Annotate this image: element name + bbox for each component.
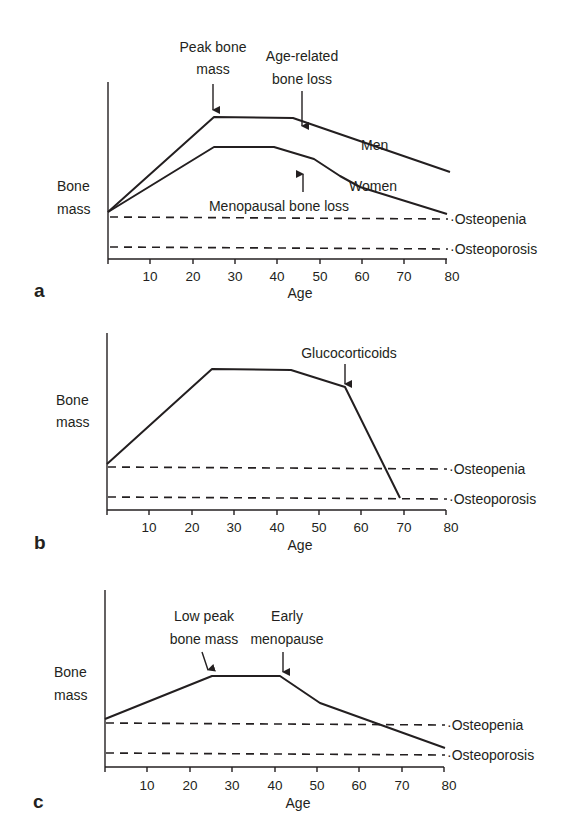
y-axis-label: mass bbox=[57, 201, 90, 217]
annotation-peak: mass bbox=[196, 61, 229, 77]
tick-label: 60 bbox=[351, 778, 366, 793]
tick-label: 80 bbox=[444, 269, 459, 284]
osteopenia-line bbox=[106, 723, 445, 725]
x-ticks bbox=[107, 510, 446, 515]
annotation-low-peak: bone mass bbox=[170, 631, 238, 647]
women-label: Women bbox=[349, 178, 397, 194]
panel-letter: a bbox=[34, 280, 45, 301]
annotation-age-related: bone loss bbox=[272, 71, 332, 87]
osteopenia-line bbox=[108, 467, 447, 469]
osteoporosis-line bbox=[106, 753, 445, 755]
panel-letter: c bbox=[33, 791, 44, 812]
osteoporosis-label: ·Osteoporosis bbox=[447, 747, 534, 763]
tick-label: 70 bbox=[396, 520, 411, 535]
tick-label: 10 bbox=[141, 520, 156, 535]
tick-label: 50 bbox=[309, 778, 324, 793]
tick-label: 80 bbox=[443, 520, 458, 535]
osteopenia-label: ·Osteopenia bbox=[450, 211, 526, 227]
tick-label: 20 bbox=[185, 269, 200, 284]
osteoporosis-label: ·Osteoporosis bbox=[450, 241, 537, 257]
panel-a: 10 20 30 40 50 60 70 80 Age Bone mass a … bbox=[34, 39, 537, 301]
annotation-age-related: Age-related bbox=[266, 48, 338, 64]
annotation-peak: Peak bone bbox=[180, 39, 247, 55]
y-axis-label: Bone bbox=[56, 392, 89, 408]
osteoporosis-label: ·Osteoporosis bbox=[449, 491, 536, 507]
tick-label: 10 bbox=[139, 778, 154, 793]
annotation-menopausal: Menopausal bone loss bbox=[209, 198, 349, 214]
tick-label: 70 bbox=[396, 269, 411, 284]
panel-letter: b bbox=[34, 532, 46, 553]
tick-label: 60 bbox=[354, 269, 369, 284]
x-axis-label: Age bbox=[286, 795, 311, 811]
tick-label: 30 bbox=[226, 520, 241, 535]
tick-label: 40 bbox=[269, 520, 284, 535]
annotation-low-peak: Low peak bbox=[174, 608, 235, 624]
annotation-early-menopause: Early bbox=[271, 608, 303, 624]
tick-label: 30 bbox=[224, 778, 239, 793]
osteopenia-line bbox=[110, 217, 448, 219]
y-axis-label: mass bbox=[56, 414, 89, 430]
bone-mass-curve bbox=[107, 369, 400, 498]
x-axis-label: Age bbox=[288, 285, 313, 301]
x-axis-label: Age bbox=[288, 537, 313, 553]
tick-label: 20 bbox=[182, 778, 197, 793]
x-ticks bbox=[105, 767, 444, 772]
y-axis-label: Bone bbox=[57, 178, 90, 194]
tick-label: 70 bbox=[394, 778, 409, 793]
tick-label: 40 bbox=[269, 269, 284, 284]
figure: 10 20 30 40 50 60 70 80 Age Bone mass a … bbox=[0, 0, 575, 833]
panel-b: 10 20 30 40 50 60 70 80 Age Bone mass b … bbox=[34, 333, 536, 553]
tick-label: 50 bbox=[311, 520, 326, 535]
tick-label: 50 bbox=[312, 269, 327, 284]
panel-c: 10 20 30 40 50 60 70 80 Age Bone mass c … bbox=[33, 590, 534, 812]
osteoporosis-line bbox=[108, 497, 447, 499]
tick-label: 60 bbox=[353, 520, 368, 535]
osteopenia-label: ·Osteopenia bbox=[449, 461, 525, 477]
tick-label: 10 bbox=[142, 269, 157, 284]
tick-label: 80 bbox=[441, 778, 456, 793]
annotation-glucocorticoids: Glucocorticoids bbox=[301, 345, 397, 361]
x-ticks bbox=[108, 259, 446, 264]
y-axis-label: Bone bbox=[54, 664, 87, 680]
arrow-down-icon bbox=[202, 652, 208, 670]
tick-label: 40 bbox=[267, 778, 282, 793]
men-label: Men bbox=[361, 137, 388, 153]
bone-mass-curve bbox=[105, 676, 445, 748]
tick-label: 30 bbox=[227, 269, 242, 284]
osteoporosis-line bbox=[110, 247, 448, 249]
y-axis-label: mass bbox=[54, 687, 87, 703]
annotation-early-menopause: menopause bbox=[250, 631, 323, 647]
tick-label: 20 bbox=[184, 520, 199, 535]
osteopenia-label: ·Osteopenia bbox=[447, 717, 523, 733]
